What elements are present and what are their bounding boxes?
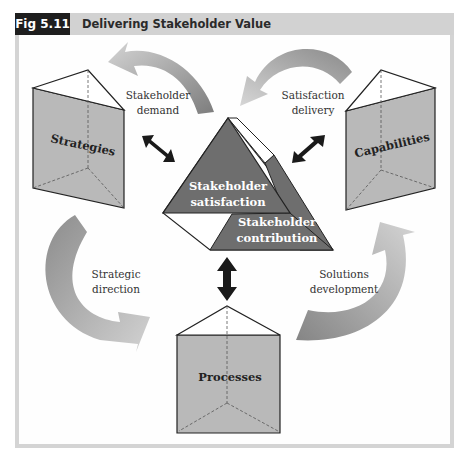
solutions-development-line-1: Solutions <box>304 267 384 282</box>
stakeholder-demand-line-1: Stakeholder <box>123 88 193 103</box>
strategic-direction-line-2: direction <box>84 282 148 297</box>
contribution-line-1: Stakeholder <box>232 214 322 230</box>
strategic-direction-label: Strategic direction <box>84 267 148 297</box>
double-arrow-strategies-pyramid <box>142 135 175 162</box>
contribution-line-2: contribution <box>232 230 322 246</box>
processes-label: Processes <box>190 370 270 384</box>
satisfaction-line-2: satisfaction <box>183 194 273 210</box>
satisfaction-delivery-line-1: Satisfaction <box>276 88 350 103</box>
strategic-direction-line-1: Strategic <box>84 267 148 282</box>
stakeholder-contribution-label: Stakeholder contribution <box>232 214 322 246</box>
solutions-development-label: Solutions development <box>304 267 384 297</box>
stakeholder-demand-line-2: demand <box>123 103 193 118</box>
solutions-development-line-2: development <box>304 282 384 297</box>
satisfaction-line-1: Stakeholder <box>183 178 273 194</box>
stakeholder-demand-label: Stakeholder demand <box>123 88 193 118</box>
double-arrow-capabilities-pyramid <box>292 135 325 163</box>
stakeholder-satisfaction-label: Stakeholder satisfaction <box>183 178 273 210</box>
double-arrow-pyramid-processes <box>217 257 237 301</box>
satisfaction-delivery-line-2: delivery <box>276 103 350 118</box>
satisfaction-delivery-label: Satisfaction delivery <box>276 88 350 118</box>
